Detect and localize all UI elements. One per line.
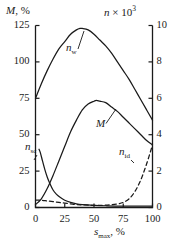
axis-frame [36,26,153,208]
annotation-leaders [34,31,134,163]
y-tick-label: 75 [6,93,30,104]
curve-n_w [36,28,153,120]
leader-n_w [78,31,84,49]
curve-n_sc [39,149,152,206]
y2-tick-label: 2 [157,166,177,177]
y-tick-label: 50 [6,129,30,140]
y-tick-label: 100 [6,56,30,67]
y2-tick-label: 8 [157,56,177,67]
axis-ticks [36,26,153,208]
chart-figure: M, % n × 103 smax, % 0255075100125024681… [0,0,176,241]
x-tick-label: 100 [141,214,165,225]
x-tick-label: 75 [111,214,135,225]
x-tick-label: 0 [24,214,48,225]
data-curves [36,28,153,206]
y-tick-label: 125 [6,20,30,31]
x-tick-label: 50 [82,214,106,225]
curve-label-symbol: M [96,117,105,129]
curve-label-M: M [96,118,105,129]
frame-path [36,26,153,208]
curve-label-n_sc: nsc [25,141,36,155]
y-tick-label: 0 [6,202,30,213]
y2-tick-label: 4 [157,129,177,140]
curve-label-subscript: id [125,152,130,160]
curve-label-n_id: nid [119,146,130,160]
curve-label-n_w: nw [66,42,77,56]
y2-tick-label: 0 [157,202,177,213]
curve-label-subscript: sc [31,147,37,155]
x-tick-label: 25 [53,214,77,225]
y-tick-label: 25 [6,166,30,177]
leader-M [106,109,116,124]
y2-tick-label: 10 [157,20,177,31]
curve-label-subscript: w [72,48,77,56]
y2-tick-label: 6 [157,93,177,104]
leader-n_id [131,160,134,163]
